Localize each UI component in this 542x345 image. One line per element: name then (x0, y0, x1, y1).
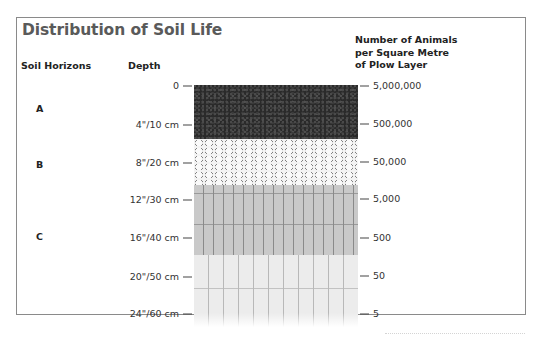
animal-count-tick-label: 50 (360, 270, 385, 281)
depth-tick-label: 16"/40 cm (130, 232, 192, 243)
soil-horizons-header: Soil Horizons (21, 60, 91, 71)
soil-profile-illustration (194, 85, 358, 327)
animal-count-tick-label: 5,000,000 (360, 80, 421, 91)
depth-tick-label: 24"/60 cm (130, 308, 192, 319)
depth-header: Depth (128, 60, 160, 71)
animal-count-header-line: Number of Animals (355, 34, 457, 47)
animal-count-tick-label: 50,000 (360, 156, 406, 167)
depth-tick-label: 20"/50 cm (130, 271, 192, 282)
horizon-label: B (36, 159, 43, 170)
figure-title: Distribution of Soil Life (22, 21, 222, 39)
animal-count-tick-label: 500 (360, 232, 391, 243)
depth-tick-label: 12"/30 cm (130, 194, 192, 205)
animal-count-header-line: per Square Metre (355, 47, 457, 60)
depth-tick-label: 0 (173, 80, 192, 91)
animal-count-tick-label: 5,000 (360, 193, 400, 204)
truncated-caption (385, 333, 525, 337)
animal-count-header: Number of Animals per Square Metre of Pl… (355, 34, 457, 72)
horizon-b-layer (194, 139, 358, 187)
horizon-b-c-transition-layer (194, 185, 358, 255)
depth-tick-label: 8"/20 cm (136, 157, 192, 168)
animal-count-tick-label: 5 (360, 308, 379, 319)
animal-count-header-line: of Plow Layer (355, 59, 457, 72)
horizon-label: C (36, 231, 43, 242)
profile-fade (194, 313, 358, 327)
horizon-a-layer (194, 85, 358, 139)
depth-tick-label: 4"/10 cm (136, 119, 192, 130)
horizon-label: A (36, 103, 43, 114)
animal-count-tick-label: 500,000 (360, 118, 412, 129)
